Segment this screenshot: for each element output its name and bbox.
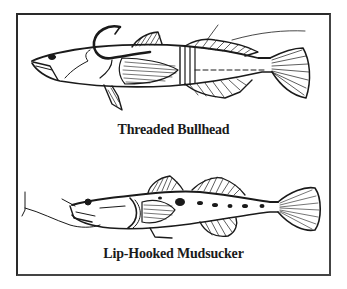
caption-lip-hooked-mudsucker: Lip-Hooked Mudsucker (0, 246, 347, 262)
caption-threaded-bullhead: Threaded Bullhead (0, 122, 347, 138)
threaded-bullhead-illustration (0, 0, 347, 125)
lip-hooked-mudsucker-illustration (0, 140, 347, 245)
